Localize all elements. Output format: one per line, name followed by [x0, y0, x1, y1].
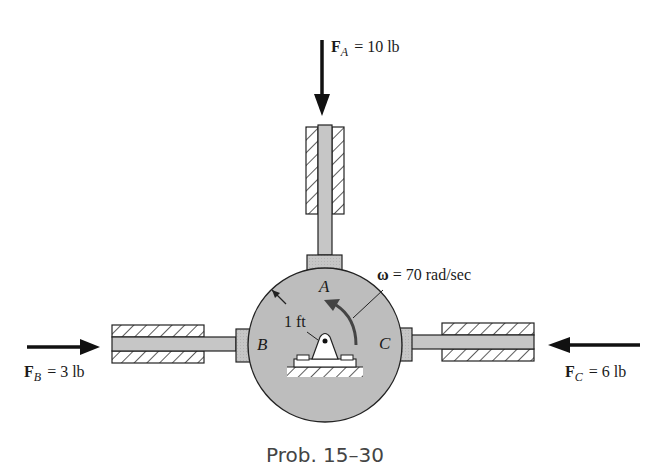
rod-a: [318, 125, 332, 255]
point-label-b: B: [257, 335, 268, 354]
force-arrow-a: [314, 40, 330, 116]
figure-caption: Prob. 15–30: [266, 443, 384, 467]
guide-right: [397, 323, 534, 361]
point-label-c: C: [379, 334, 391, 353]
force-label-a: FA= 10 lb: [331, 38, 400, 59]
diagram-stage: FA= 10 lb FB= 3 lb FC= 6 lb A B C 1 ft ω…: [0, 0, 667, 475]
point-label-a: A: [318, 277, 330, 296]
guide-left: [112, 325, 251, 363]
force-arrow-b: [27, 339, 100, 355]
omega-label: ω= 70 rad/sec: [377, 266, 471, 283]
radius-label: 1 ft: [284, 313, 306, 330]
rod-c: [411, 335, 534, 349]
guide-top: [306, 125, 344, 270]
rod-b: [112, 337, 236, 351]
force-label-c: FC= 6 lb: [565, 363, 626, 384]
force-label-b: FB= 3 lb: [24, 363, 85, 384]
mechanism-diagram: FA= 10 lb FB= 3 lb FC= 6 lb A B C 1 ft ω…: [0, 0, 667, 475]
force-arrow-c: [548, 337, 640, 353]
pin-icon: [323, 339, 328, 344]
